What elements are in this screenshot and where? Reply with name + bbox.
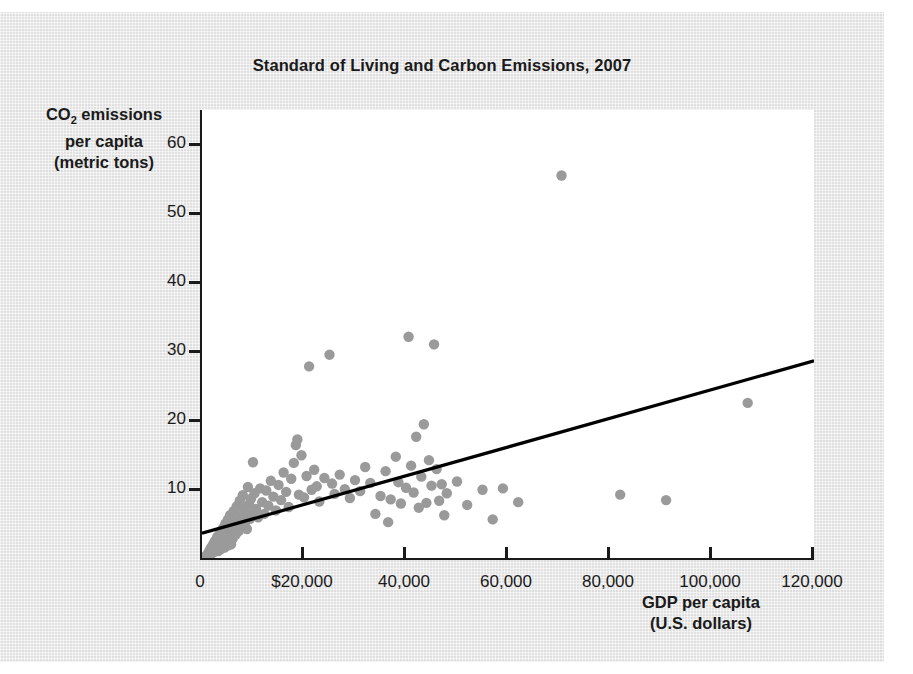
scatter-point: [383, 517, 393, 527]
scatter-point: [242, 524, 252, 534]
scatter-point: [477, 485, 487, 495]
x-axis-title-line1: GDP per capita: [642, 593, 760, 611]
y-axis-title-co-text: CO: [46, 105, 71, 123]
scatter-point: [396, 498, 406, 508]
scatter-point: [335, 469, 345, 479]
plot-area: [200, 110, 814, 560]
x-axis-tick-mark: [709, 547, 712, 558]
scatter-point: [426, 480, 436, 490]
scatter-point: [386, 494, 396, 504]
scatter-point: [292, 434, 302, 444]
scatter-point: [424, 455, 434, 465]
scatter-point: [513, 497, 523, 507]
scatter-point: [248, 457, 258, 467]
scatter-point: [286, 474, 296, 484]
scatter-point: [327, 478, 337, 488]
scatter-point: [743, 398, 753, 408]
y-axis-tick-mark: [189, 143, 200, 146]
scatter-point: [380, 466, 390, 476]
scatter-point: [661, 495, 671, 505]
scatter-point: [411, 432, 421, 442]
scatter-point: [391, 451, 401, 461]
scatter-point: [403, 332, 413, 342]
scatter-point: [345, 493, 355, 503]
y-axis-tick-label: 30: [126, 340, 186, 360]
scatter-point: [437, 479, 447, 489]
scatter-point: [309, 465, 319, 475]
scatter-point: [289, 458, 299, 468]
y-axis-tick-label: 10: [126, 478, 186, 498]
y-axis-tick-mark: [189, 350, 200, 353]
scatter-point: [312, 481, 322, 491]
scatter-point: [370, 509, 380, 519]
scatter-point: [360, 462, 370, 472]
x-axis-tick-mark: [505, 547, 508, 558]
scatter-point: [408, 487, 418, 497]
figure-root: Standard of Living and Carbon Emissions,…: [0, 0, 913, 674]
scatter-point: [281, 487, 291, 497]
scatter-point: [434, 496, 444, 506]
y-axis-tick-label: 40: [126, 271, 186, 291]
y-axis-tick-mark: [189, 281, 200, 284]
y-axis-tick-mark: [189, 212, 200, 215]
y-axis-title-line1: CO2 emissions: [46, 105, 162, 123]
x-axis-tick-mark: [301, 547, 304, 558]
scatter-point: [488, 514, 498, 524]
scatter-point: [442, 488, 452, 498]
scatter-point: [615, 489, 625, 499]
x-axis-tick-mark: [811, 547, 814, 558]
scatter-point: [350, 475, 360, 485]
scatter-points-group: [202, 170, 753, 558]
y-axis-tick-mark: [189, 488, 200, 491]
y-axis-tick-label: 50: [126, 202, 186, 222]
scatter-point: [299, 492, 309, 502]
scatter-point: [439, 510, 449, 520]
scatter-point: [296, 450, 306, 460]
x-axis-tick-label: 120,000: [752, 572, 872, 592]
scatter-point: [304, 361, 314, 371]
scatter-point: [421, 498, 431, 508]
chart-title: Standard of Living and Carbon Emissions,…: [0, 56, 884, 75]
scatter-point: [324, 349, 334, 359]
scatter-point: [375, 491, 385, 501]
x-axis-title-line2: (U.S. dollars): [650, 614, 752, 632]
scatter-plot-canvas: [202, 110, 814, 558]
scatter-point: [498, 483, 508, 493]
y-axis-tick-label: 60: [126, 133, 186, 153]
x-axis-title: GDP per capita (U.S. dollars): [556, 592, 846, 634]
scatter-point: [462, 500, 472, 510]
y-axis-title-emissions-text: emissions: [77, 105, 162, 123]
scatter-point: [452, 476, 462, 486]
y-axis-tick-label: 20: [126, 409, 186, 429]
x-axis-tick-mark: [403, 547, 406, 558]
scatter-point: [556, 170, 566, 180]
scatter-point: [406, 460, 416, 470]
y-axis-tick-mark: [189, 419, 200, 422]
x-axis-tick-mark: [607, 547, 610, 558]
y-axis-title-line3: (metric tons): [54, 153, 154, 171]
scatter-point: [429, 339, 439, 349]
scatter-point: [419, 419, 429, 429]
